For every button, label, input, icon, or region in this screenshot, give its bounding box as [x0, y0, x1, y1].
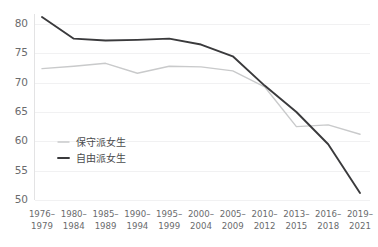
y-tick-label: 80	[15, 17, 28, 29]
x-tick-label-line1: 1995–	[156, 209, 182, 219]
y-tick-label: 50	[15, 193, 28, 205]
x-tick-label-line1: 1985–	[93, 209, 119, 219]
x-tick-label-line2: 2015	[285, 221, 307, 231]
x-tick-label-line2: 1989	[95, 221, 117, 231]
x-tick-label-line2: 1999	[158, 221, 180, 231]
x-tick-label-line2: 1984	[63, 221, 85, 231]
x-tick-label-line2: 1994	[126, 221, 148, 231]
x-tick-label-line1: 2013–	[283, 209, 309, 219]
y-tick-label: 70	[15, 76, 28, 88]
x-tick-label-line1: 2010–	[252, 209, 278, 219]
x-tick-label-line1: 1976–	[29, 209, 55, 219]
x-tick-label-line2: 2012	[254, 221, 276, 231]
x-tick-label-line2: 2004	[190, 221, 212, 231]
y-tick-label: 60	[15, 134, 28, 146]
x-tick-label-line1: 2005–	[220, 209, 246, 219]
legend-label-conservative: 保守派女生	[76, 136, 126, 148]
x-tick-label-line2: 2018	[317, 221, 339, 231]
y-tick-label: 65	[15, 105, 28, 117]
y-tick-label: 55	[15, 164, 28, 176]
y-tick-label: 75	[15, 46, 28, 58]
x-tick-label-line2: 1979	[31, 221, 53, 231]
legend-label-liberal: 自由派女生	[76, 152, 126, 164]
line-chart: 50556065707580 1976–19791980–19841985–19…	[0, 0, 378, 247]
x-tick-label-line1: 2000–	[188, 209, 214, 219]
x-tick-label-line2: 2009	[222, 221, 244, 231]
x-tick-label-line1: 1980–	[61, 209, 87, 219]
chart-canvas: 50556065707580 1976–19791980–19841985–19…	[0, 0, 378, 247]
x-tick-label-line1: 2016–	[315, 209, 341, 219]
x-tick-label-line1: 1990–	[124, 209, 150, 219]
x-tick-label-line2: 2021	[349, 221, 371, 231]
x-tick-label-line1: 2019–	[347, 209, 373, 219]
